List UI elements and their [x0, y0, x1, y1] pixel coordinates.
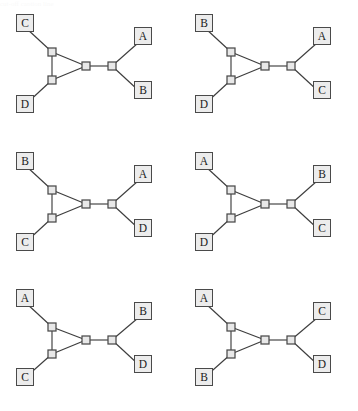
internal-node-upper-left	[227, 186, 235, 194]
internal-node-lower-left	[227, 350, 235, 358]
internal-node-hub-left	[82, 336, 90, 344]
leaf-top-left[interactable]: C	[16, 14, 34, 32]
internal-node-lower-left	[48, 76, 56, 84]
leaf-bottom-right[interactable]: C	[313, 81, 331, 99]
internal-node-hub-right	[108, 62, 116, 70]
edge-triangle-lower	[52, 66, 86, 80]
edge-triangle-upper	[52, 327, 86, 340]
internal-node-hub-left	[261, 200, 269, 208]
leaf-top-right[interactable]: B	[313, 165, 331, 183]
leaf-bottom-right[interactable]: C	[313, 219, 331, 237]
diagram-panel-3: B C A D	[0, 138, 179, 276]
leaf-top-right[interactable]: A	[134, 27, 152, 45]
edge-triangle-lower	[231, 340, 265, 354]
leaf-top-right[interactable]: A	[134, 165, 152, 183]
internal-node-lower-left	[48, 350, 56, 358]
diagram-panel-6: A B C D	[179, 276, 358, 411]
internal-node-upper-left	[48, 48, 56, 56]
diagram-panel-5: A C B D	[0, 276, 179, 411]
leaf-top-right[interactable]: C	[313, 302, 331, 320]
internal-node-hub-left	[261, 336, 269, 344]
leaf-bottom-right[interactable]: B	[134, 81, 152, 99]
internal-node-hub-left	[82, 62, 90, 70]
leaf-bottom-left[interactable]: D	[195, 233, 213, 251]
edge-triangle-upper	[52, 52, 86, 66]
edge-triangle-upper	[231, 327, 265, 340]
internal-node-lower-left	[48, 214, 56, 222]
diagram-panel-2: B D A C	[179, 0, 358, 138]
edge-triangle-upper	[52, 190, 86, 204]
leaf-top-left[interactable]: B	[195, 14, 213, 32]
leaf-top-right[interactable]: B	[134, 302, 152, 320]
internal-node-hub-right	[287, 62, 295, 70]
edge-triangle-lower	[231, 66, 265, 80]
leaf-top-left[interactable]: A	[16, 289, 34, 307]
internal-node-lower-left	[227, 214, 235, 222]
internal-node-hub-left	[261, 62, 269, 70]
edge-triangle-lower	[52, 204, 86, 218]
internal-node-upper-left	[48, 186, 56, 194]
leaf-top-right[interactable]: A	[313, 27, 331, 45]
diagram-panel-4: A D B C	[179, 138, 358, 276]
leaf-top-left[interactable]: A	[195, 289, 213, 307]
leaf-top-left[interactable]: B	[16, 152, 34, 170]
internal-node-hub-right	[287, 200, 295, 208]
edge-triangle-lower	[231, 204, 265, 218]
leaf-bottom-left[interactable]: C	[16, 368, 34, 386]
leaf-bottom-left[interactable]: B	[195, 368, 213, 386]
internal-node-hub-right	[287, 336, 295, 344]
edge-triangle-upper	[231, 190, 265, 204]
internal-node-upper-left	[48, 323, 56, 331]
leaf-bottom-right[interactable]: D	[134, 219, 152, 237]
internal-node-upper-left	[227, 323, 235, 331]
figure-grid: C D A B B D A C	[0, 0, 358, 411]
internal-node-hub-right	[108, 336, 116, 344]
leaf-bottom-left[interactable]: D	[16, 95, 34, 113]
diagram-panel-1: C D A B	[0, 0, 179, 138]
internal-node-hub-left	[82, 200, 90, 208]
leaf-bottom-right[interactable]: D	[313, 355, 331, 373]
leaf-bottom-left[interactable]: D	[195, 95, 213, 113]
leaf-bottom-left[interactable]: C	[16, 233, 34, 251]
leaf-bottom-right[interactable]: D	[134, 355, 152, 373]
internal-node-lower-left	[227, 76, 235, 84]
edge-triangle-upper	[231, 52, 265, 66]
internal-node-hub-right	[108, 200, 116, 208]
leaf-top-left[interactable]: A	[195, 152, 213, 170]
edge-triangle-lower	[52, 340, 86, 354]
internal-node-upper-left	[227, 48, 235, 56]
